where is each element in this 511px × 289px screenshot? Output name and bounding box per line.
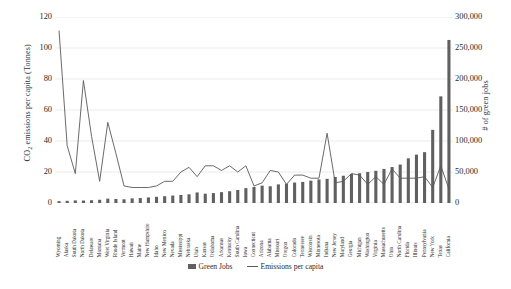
x-axis-label: California: [446, 236, 451, 257]
legend-bar-swatch-icon: [188, 264, 196, 269]
legend-item-emissions-per-capita: Emissions per capita: [247, 262, 324, 271]
x-axis-label: New York: [429, 236, 434, 257]
x-axis-label: Mississippi: [178, 233, 183, 257]
x-axis-label: Maryland: [340, 237, 345, 257]
x-axis-label: Massachusetts: [381, 227, 386, 257]
x-axis-label: New Hampshire: [145, 223, 150, 257]
x-axis-label: Kentucky: [226, 237, 231, 257]
x-axis-label: South Carolina: [235, 226, 240, 257]
y-axis-right-ticks: 050,000100,000150,000200,000250,000300,0…: [455, 0, 511, 210]
x-axis-label: Virginia: [373, 240, 378, 257]
plot-area: [55, 17, 453, 203]
x-axis-label: West Virginia: [105, 229, 110, 257]
y-axis-right-tick: 250,000: [455, 44, 482, 52]
x-axis-label: Minnesota: [316, 235, 321, 257]
x-axis-label: Vermont: [121, 239, 126, 257]
x-axis-label: Wyoming: [56, 237, 61, 257]
x-axis-label: Michigan: [356, 237, 361, 257]
x-axis-label: Missouri: [275, 239, 280, 257]
y-axis-left-tick: 40: [44, 137, 52, 145]
x-axis-label: Arkansas: [218, 238, 223, 257]
x-axis-category-labels: WyomingAlaskaSouth DakotaNorth DakotaDel…: [55, 205, 453, 257]
x-axis-label: Iowa: [243, 247, 248, 257]
y-axis-left-tick: 120: [39, 13, 52, 21]
x-axis-label: Hawaii: [129, 242, 134, 257]
y-axis-left-tick: 80: [44, 75, 52, 83]
x-axis-label: Nebraska: [186, 237, 191, 257]
chart-legend: Green Jobs Emissions per capita: [0, 262, 511, 271]
x-axis-label: Pennsylvania: [421, 229, 426, 257]
x-axis-label: Oklahoma: [210, 235, 215, 257]
x-axis-label: Utah: [194, 247, 199, 257]
x-axis-label: Ohio: [389, 247, 394, 257]
x-axis-label: Illinois: [413, 242, 418, 257]
y-axis-left-tick: 100: [39, 44, 52, 52]
x-axis-label: New Jersey: [332, 233, 337, 257]
x-axis-label: Alabama: [267, 238, 272, 257]
y-axis-right-tick: 300,000: [455, 13, 482, 21]
x-axis-label: Wisconsin: [308, 235, 313, 257]
x-axis-label: Rhode Island: [113, 229, 118, 257]
x-axis-label: North Carolina: [397, 226, 402, 257]
x-axis-label: Alaska: [64, 243, 69, 257]
legend-label-green-jobs: Green Jobs: [199, 262, 233, 271]
legend-line-swatch-icon: [247, 266, 258, 267]
y-axis-left-tick: 60: [44, 106, 52, 114]
x-axis-label: Tennessee: [300, 236, 305, 257]
x-axis-label: Indiana: [324, 241, 329, 257]
y-axis-right-tick: 200,000: [455, 75, 482, 83]
x-axis-label: Oregon: [283, 241, 288, 257]
x-axis-label: Florida: [405, 242, 410, 257]
x-axis-label: Texas: [438, 245, 443, 257]
y-axis-right-tick: 100,000: [455, 137, 482, 145]
y-axis-right-tick: 150,000: [455, 106, 482, 114]
x-axis-label: Idaho: [153, 245, 158, 257]
x-axis-label: Montana: [96, 239, 101, 257]
x-axis-label: Delaware: [88, 237, 93, 257]
x-axis-label: Nevada: [170, 241, 175, 257]
x-axis-label: North Dakota: [80, 229, 85, 257]
x-axis-label: Connecticut: [251, 232, 256, 257]
x-axis-label: New Mexico: [161, 230, 166, 257]
x-axis-label: Colorado: [291, 238, 296, 257]
x-axis-label: Washington: [365, 232, 370, 257]
y-axis-right-tick: 50,000: [455, 168, 478, 176]
x-axis-label: Georgia: [348, 240, 353, 257]
x-axis-label: Kansas: [202, 242, 207, 257]
legend-item-green-jobs: Green Jobs: [188, 262, 233, 271]
x-axis-label: Maine: [137, 244, 142, 257]
y-axis-left-tick: 0: [48, 199, 52, 207]
y-axis-left-ticks: 020406080100120: [8, 0, 52, 210]
y-axis-right-tick: 0: [455, 199, 459, 207]
x-axis-label: South Dakota: [72, 229, 77, 257]
legend-label-emissions-per-capita: Emissions per capita: [261, 262, 324, 271]
plot-svg: [55, 17, 453, 203]
chart-container: CO2 emissions per capita (Tonnes) # of g…: [0, 0, 511, 289]
x-axis-label: Arizona: [259, 240, 264, 257]
y-axis-left-tick: 20: [44, 168, 52, 176]
